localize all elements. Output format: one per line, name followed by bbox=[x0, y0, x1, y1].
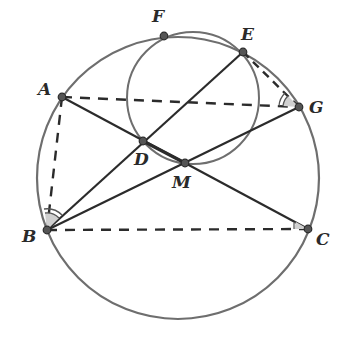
segment-BC bbox=[47, 229, 308, 230]
segment-AG bbox=[62, 97, 299, 107]
segment-BG bbox=[47, 107, 299, 230]
point-F bbox=[160, 32, 168, 40]
label-C: C bbox=[316, 229, 330, 249]
point-M bbox=[181, 159, 189, 167]
label-E: E bbox=[240, 24, 255, 44]
point-G bbox=[295, 103, 303, 111]
label-G: G bbox=[309, 97, 324, 117]
point-B bbox=[43, 226, 51, 234]
label-M: M bbox=[171, 172, 192, 192]
label-A: A bbox=[36, 79, 51, 99]
label-D: D bbox=[133, 149, 149, 169]
label-B: B bbox=[21, 226, 36, 246]
geometry-diagram: A B C D E F G M bbox=[0, 0, 347, 338]
point-D bbox=[139, 137, 147, 145]
points bbox=[43, 32, 312, 234]
point-A bbox=[58, 93, 66, 101]
point-E bbox=[239, 48, 247, 56]
label-F: F bbox=[151, 6, 166, 26]
point-C bbox=[304, 225, 312, 233]
segment-DM bbox=[143, 141, 185, 163]
